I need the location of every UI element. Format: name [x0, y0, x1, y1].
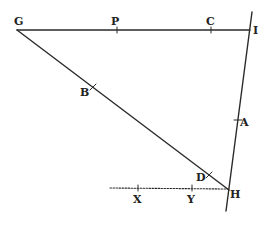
label-C: C: [206, 15, 215, 28]
line-IH-extended: [226, 12, 252, 211]
label-X: X: [133, 193, 142, 206]
geometry-diagram: G P C I B A D H X Y: [0, 0, 268, 225]
line-XH-dotted: [110, 188, 228, 189]
label-G: G: [14, 15, 23, 28]
label-D: D: [196, 171, 206, 184]
label-P: P: [111, 15, 119, 28]
label-I: I: [253, 24, 258, 37]
label-H: H: [230, 188, 240, 201]
label-B: B: [80, 86, 89, 99]
label-A: A: [239, 116, 249, 129]
line-GH: [17, 30, 229, 190]
label-Y: Y: [186, 193, 195, 206]
